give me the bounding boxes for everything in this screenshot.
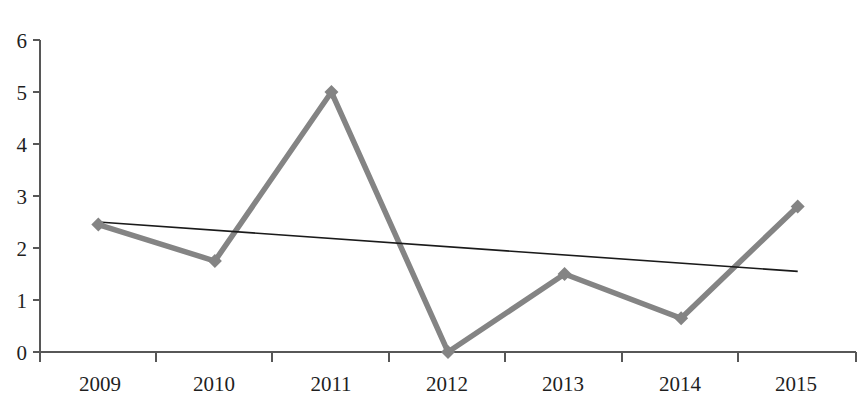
y-tick-label: 3 [17,185,28,209]
y-tick-label: 0 [17,341,28,365]
x-tick-label: 2010 [193,372,235,396]
y-tick-label: 4 [17,133,28,157]
x-tick-label: 2015 [775,372,817,396]
chart-plot-area: 6 5 4 3 2 1 0 2009 2010 2011 2012 2013 2… [0,0,867,409]
y-tick-label: 1 [17,289,28,313]
x-tick-label: 2014 [659,372,702,396]
x-tick-label: 2012 [426,372,468,396]
y-tick-label: 2 [17,237,28,261]
trendline [98,222,797,271]
x-axis-tick-labels: 2009 2010 2011 2012 2013 2014 2015 [79,372,817,396]
y-tick-label: 6 [17,29,28,53]
data-series-line [98,92,797,352]
y-axis-ticks [33,40,40,352]
x-tick-label: 2009 [79,372,121,396]
x-tick-label: 2011 [310,372,351,396]
x-tick-label: 2013 [542,372,584,396]
y-tick-label: 5 [17,81,28,105]
data-point-markers [91,85,804,359]
line-chart: · · · [0,0,867,409]
y-axis-tick-labels: 6 5 4 3 2 1 0 [17,29,28,365]
data-point-marker-2009 [91,218,105,232]
